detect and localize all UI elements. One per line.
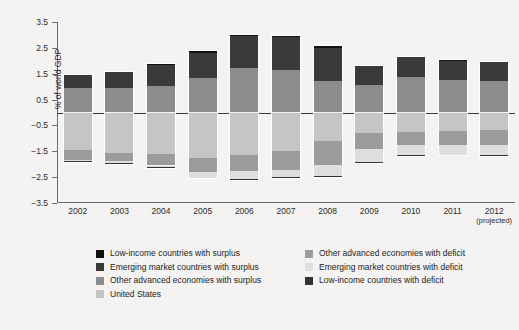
bar-segment bbox=[354, 133, 384, 149]
bar-segment bbox=[479, 62, 509, 81]
y-tick-label: −1.5 bbox=[18, 147, 48, 155]
legend-item[interactable]: Other advanced economies with surplus bbox=[96, 274, 311, 288]
legend-column-left: Low-income countries with surplusEmergin… bbox=[96, 247, 311, 301]
bar-segment bbox=[479, 61, 509, 63]
bar-segment bbox=[104, 153, 134, 162]
legend-label: Low-income countries with surplus bbox=[110, 249, 240, 258]
bar-segment bbox=[146, 154, 176, 165]
bar-segment bbox=[271, 70, 301, 113]
bar-segment bbox=[479, 130, 509, 145]
y-tick-label: 3.5 bbox=[18, 18, 48, 26]
bar-segment bbox=[313, 165, 343, 176]
bar-segment bbox=[438, 80, 468, 112]
bar-group[interactable] bbox=[271, 22, 301, 203]
bar-segment bbox=[63, 150, 93, 160]
x-axis-label-note: (projected) bbox=[469, 216, 519, 226]
legend-swatch-icon bbox=[96, 263, 104, 271]
bar-segment bbox=[354, 113, 384, 133]
bar-segment bbox=[104, 113, 134, 153]
bar-segment bbox=[229, 68, 259, 112]
bar-segment bbox=[229, 113, 259, 156]
y-tick-label: 1.5 bbox=[18, 70, 48, 78]
bar-segment bbox=[313, 81, 343, 112]
legend-label: Other advanced economies with deficit bbox=[319, 249, 465, 258]
bar-group[interactable] bbox=[229, 22, 259, 203]
bar-group[interactable] bbox=[479, 22, 509, 203]
bar-segment bbox=[271, 37, 301, 70]
bar-segment bbox=[396, 77, 426, 112]
bar-segment bbox=[396, 155, 426, 157]
bar-group[interactable] bbox=[104, 22, 134, 203]
bar-segment bbox=[104, 72, 134, 88]
bar-segment bbox=[396, 57, 426, 77]
bar-segment bbox=[479, 113, 509, 131]
plot-area: 3.52.51.50.5−0.5−1.5−2.5−3.5 % of world … bbox=[57, 22, 515, 203]
bar-segment bbox=[63, 75, 93, 88]
bar-segment bbox=[396, 145, 426, 155]
bar-group[interactable] bbox=[396, 22, 426, 203]
x-axis-label: 2012(projected) bbox=[469, 206, 519, 226]
legend-swatch-icon bbox=[96, 250, 104, 258]
legend-column-right: Other advanced economies with deficitEme… bbox=[305, 247, 519, 288]
bar-segment bbox=[438, 131, 468, 145]
bar-group[interactable] bbox=[354, 22, 384, 203]
y-tick-mark bbox=[52, 203, 57, 204]
bar-segment bbox=[104, 163, 134, 165]
bar-segment bbox=[396, 56, 426, 58]
bar-group[interactable] bbox=[313, 22, 343, 203]
bar-segment bbox=[146, 86, 176, 113]
y-tick-label: −3.5 bbox=[18, 199, 48, 207]
bar-segment bbox=[354, 149, 384, 162]
chart-figure: 3.52.51.50.5−0.5−1.5−2.5−3.5 % of world … bbox=[0, 0, 519, 330]
bar-segment bbox=[354, 65, 384, 66]
bar-segment bbox=[229, 36, 259, 68]
legend-label: Low-income countries with deficit bbox=[319, 276, 444, 285]
y-tick-label: −2.5 bbox=[18, 173, 48, 181]
bar-segment bbox=[271, 177, 301, 179]
legend-swatch-icon bbox=[305, 250, 313, 258]
bar-segment bbox=[104, 88, 134, 112]
bar-segment bbox=[63, 88, 93, 113]
legend-item[interactable]: Emerging market countries with surplus bbox=[96, 261, 311, 275]
legend-item[interactable]: Emerging market countries with deficit bbox=[305, 261, 519, 275]
bar-segment bbox=[396, 113, 426, 132]
bar-segment bbox=[354, 85, 384, 113]
legend-item[interactable]: United States bbox=[96, 288, 311, 302]
bar-segment bbox=[146, 167, 176, 169]
bar-segment bbox=[229, 179, 259, 181]
bar-segment bbox=[146, 63, 176, 65]
bar-group[interactable] bbox=[146, 22, 176, 203]
bar-segment bbox=[188, 78, 218, 113]
bar-segment bbox=[146, 65, 176, 86]
legend-item[interactable]: Other advanced economies with deficit bbox=[305, 247, 519, 261]
bar-segment bbox=[188, 158, 218, 172]
bar-segment bbox=[229, 155, 259, 171]
bar-segment bbox=[313, 141, 343, 165]
bar-segment bbox=[354, 66, 384, 85]
bar-segment bbox=[63, 74, 93, 75]
bar-group[interactable] bbox=[63, 22, 93, 203]
bar-segment bbox=[271, 113, 301, 152]
legend-label: Emerging market countries with deficit bbox=[319, 263, 463, 272]
bar-segment bbox=[438, 155, 468, 157]
bar-segment bbox=[313, 113, 343, 141]
bar-segment bbox=[63, 113, 93, 150]
bar-segment bbox=[188, 178, 218, 180]
bar-segment bbox=[63, 161, 93, 163]
bar-segment bbox=[354, 162, 384, 164]
bar-segment bbox=[479, 81, 509, 113]
bar-segment bbox=[188, 53, 218, 78]
bar-segment bbox=[146, 113, 176, 155]
bar-group[interactable] bbox=[438, 22, 468, 203]
legend-label: United States bbox=[110, 290, 161, 299]
bar-group[interactable] bbox=[188, 22, 218, 203]
y-tick-label: 0.5 bbox=[18, 96, 48, 104]
bar-segment bbox=[479, 145, 509, 155]
bar-segment bbox=[188, 50, 218, 52]
bar-segment bbox=[188, 113, 218, 158]
legend-item[interactable]: Low-income countries with surplus bbox=[96, 247, 311, 261]
bar-segment bbox=[438, 59, 468, 61]
legend-swatch-icon bbox=[96, 277, 104, 285]
legend-item[interactable]: Low-income countries with deficit bbox=[305, 274, 519, 288]
bar-segment bbox=[229, 171, 259, 179]
